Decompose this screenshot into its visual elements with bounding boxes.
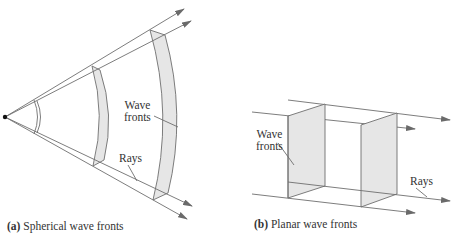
wave-fronts-label-a: Wave fronts bbox=[124, 99, 151, 123]
rays-label-b: Rays bbox=[410, 175, 433, 187]
caption-b: (b) Planar wave fronts bbox=[254, 218, 357, 230]
middle-wavefront bbox=[92, 66, 109, 166]
caption-a: (a) Spherical wave fronts bbox=[7, 220, 124, 232]
planar-wave-panel bbox=[252, 100, 450, 213]
source-point bbox=[3, 115, 7, 119]
spherical-wave-panel bbox=[5, 9, 192, 219]
outer-wavefront bbox=[150, 30, 177, 200]
rays-label-a: Rays bbox=[119, 152, 142, 164]
wave-fronts-diagram bbox=[0, 0, 454, 236]
inner-wavefront bbox=[34, 100, 38, 134]
wave-fronts-label-b: Wave fronts bbox=[256, 128, 283, 152]
